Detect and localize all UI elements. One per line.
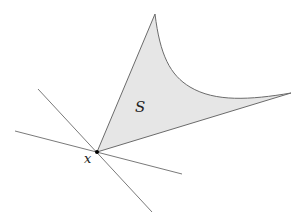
point-label: x (84, 152, 91, 165)
region-label: S (135, 100, 145, 115)
region-s (97, 14, 291, 152)
diagram-svg (0, 0, 305, 223)
point-x-marker (95, 150, 99, 154)
diagram-canvas: S x (0, 0, 305, 223)
